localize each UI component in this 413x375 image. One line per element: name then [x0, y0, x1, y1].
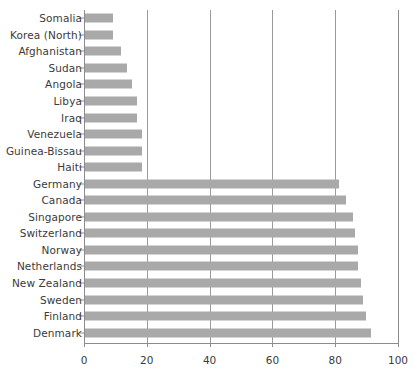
bar [85, 14, 113, 23]
bar [85, 245, 358, 254]
bar [85, 196, 346, 205]
x-tick-0 [84, 343, 85, 347]
category-label: Somalia [39, 13, 82, 24]
x-tick-100 [398, 343, 399, 347]
bar-row: Angola [0, 76, 413, 93]
bar [85, 146, 142, 155]
bar [85, 163, 142, 172]
category-label: Sweden [40, 294, 82, 305]
x-tick-label-40: 40 [203, 354, 216, 366]
bar-chart: SomaliaKorea (North)AfghanistanSudanAngo… [0, 0, 413, 375]
bar-row: Denmark [0, 324, 413, 341]
category-label: Haiti [57, 162, 82, 173]
x-tick-40 [210, 343, 211, 347]
category-label: Switzerland [20, 228, 82, 239]
bar [85, 179, 339, 188]
bar-row: Libya [0, 93, 413, 110]
category-label: Finland [44, 311, 82, 322]
bar [85, 279, 361, 288]
category-label: Guinea-Bissau [6, 145, 82, 156]
category-label: Singapore [28, 211, 82, 222]
x-tick-label-80: 80 [329, 354, 342, 366]
category-label: Sudan [48, 62, 82, 73]
x-tick-label-20: 20 [140, 354, 153, 366]
x-tick-label-0: 0 [81, 354, 88, 366]
bar [85, 262, 358, 271]
bar-row: Afghanistan [0, 43, 413, 60]
bar-row: Somalia [0, 10, 413, 27]
x-tick-80 [335, 343, 336, 347]
category-label: Angola [45, 79, 82, 90]
category-label: Netherlands [17, 261, 82, 272]
x-tick-label-60: 60 [266, 354, 279, 366]
bar-rows: SomaliaKorea (North)AfghanistanSudanAngo… [0, 10, 413, 341]
bar [85, 97, 137, 106]
bar-row: Finland [0, 308, 413, 325]
bar-row: Guinea-Bissau [0, 142, 413, 159]
bar [85, 30, 113, 39]
bar-row: Norway [0, 242, 413, 259]
bar-row: Canada [0, 192, 413, 209]
bar-row: Germany [0, 175, 413, 192]
bar [85, 328, 371, 337]
category-label: Canada [41, 195, 82, 206]
bar [85, 80, 132, 89]
bar-row: Sweden [0, 291, 413, 308]
bar [85, 47, 121, 56]
bar-row: Switzerland [0, 225, 413, 242]
bar [85, 229, 355, 238]
bar [85, 212, 353, 221]
bar-row: Netherlands [0, 258, 413, 275]
category-label: Germany [33, 178, 82, 189]
x-tick-60 [272, 343, 273, 347]
bar-row: Singapore [0, 209, 413, 226]
category-label: Norway [42, 244, 82, 255]
bar [85, 130, 142, 139]
category-label: Iraq [61, 112, 82, 123]
x-axis-line [84, 343, 399, 344]
bar-row: Haiti [0, 159, 413, 176]
bar [85, 312, 366, 321]
x-tick-20 [147, 343, 148, 347]
bar-row: Venezuela [0, 126, 413, 143]
category-label: Libya [53, 96, 82, 107]
bar-row: New Zealand [0, 275, 413, 292]
category-label: Denmark [33, 327, 82, 338]
bar [85, 113, 137, 122]
category-label: Afghanistan [18, 46, 82, 57]
bar [85, 295, 363, 304]
bar-row: Korea (North) [0, 27, 413, 44]
category-label: Korea (North) [10, 29, 82, 40]
category-label: New Zealand [12, 278, 82, 289]
bar [85, 63, 127, 72]
bar-row: Sudan [0, 60, 413, 77]
category-label: Venezuela [27, 129, 82, 140]
x-tick-label-100: 100 [388, 354, 408, 366]
bar-row: Iraq [0, 109, 413, 126]
